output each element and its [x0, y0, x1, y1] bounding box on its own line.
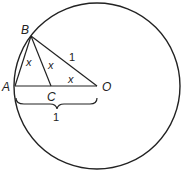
geometry-diagram: B A C O x x x 1 1	[0, 0, 187, 180]
length-label-AO: 1	[53, 111, 59, 123]
angle-label-A: x	[25, 56, 32, 68]
label-A: A	[1, 80, 10, 94]
label-O: O	[102, 80, 111, 94]
label-C: C	[47, 90, 56, 104]
angle-label-B: x	[47, 59, 54, 71]
length-label-BO: 1	[69, 51, 75, 63]
brace-AO	[16, 98, 97, 109]
angle-label-O: x	[67, 73, 74, 85]
label-B: B	[21, 23, 29, 37]
